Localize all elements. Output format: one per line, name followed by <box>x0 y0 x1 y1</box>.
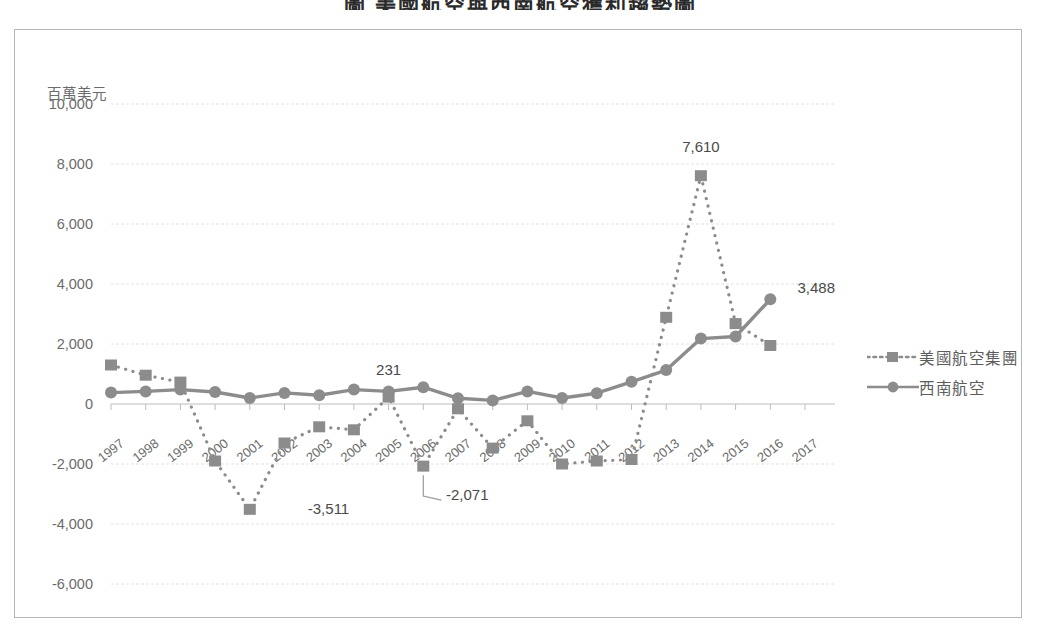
data-point-label: -2,071 <box>446 486 489 503</box>
series-marker <box>313 389 325 401</box>
series-marker <box>174 384 186 396</box>
series-marker <box>730 331 742 343</box>
series-marker <box>105 360 117 371</box>
x-axis-tick-labels: 1997199819992000200120022003200420052006… <box>95 436 821 466</box>
y-axis-tick-label: 2,000 <box>57 336 93 352</box>
series-marker <box>209 386 221 398</box>
legend-item-southwest-airlines[interactable]: 西南航空 <box>867 372 1027 402</box>
x-axis-tick-label: 2003 <box>303 436 335 466</box>
label-leader-line <box>423 475 441 500</box>
x-axis-tick-label: 1998 <box>130 436 162 466</box>
series-marker <box>521 385 533 397</box>
series-marker <box>556 392 568 404</box>
series-marker <box>764 293 776 305</box>
x-axis-tick-label: 2016 <box>754 436 786 466</box>
x-axis-tick-label: 2014 <box>685 436 717 466</box>
series-marker <box>313 421 325 432</box>
series-marker <box>417 381 429 393</box>
series-marker <box>556 459 568 470</box>
y-axis-tick-label: 8,000 <box>57 156 93 172</box>
y-axis-tick-label: -6,000 <box>52 576 93 592</box>
x-axis-tick-label: 2007 <box>442 436 474 466</box>
legend-label-southwest-airlines: 西南航空 <box>919 376 985 398</box>
x-axis <box>111 404 835 410</box>
x-axis-tick-label: 2009 <box>511 436 543 466</box>
chart-frame: 百萬美元 10,0008,0006,0004,0002,0000-2,000-4… <box>14 29 1022 618</box>
series-marker <box>209 456 221 467</box>
x-axis-tick-label: 2005 <box>372 436 404 466</box>
y-axis-tick-label: 4,000 <box>57 276 93 292</box>
series-marker <box>487 394 499 406</box>
series-marker <box>521 415 533 426</box>
page-title: 圖 美國航空與西南航空獲利趨勢圖 <box>0 0 1041 10</box>
series-marker <box>279 387 291 399</box>
x-axis-tick-label: 2013 <box>650 436 682 466</box>
series-marker <box>695 170 707 181</box>
series-marker <box>591 387 603 399</box>
data-point-label: -3,511 <box>308 500 349 517</box>
legend-swatch-solid-circle <box>867 380 919 394</box>
series-marker <box>764 340 776 351</box>
series-marker <box>452 403 464 414</box>
legend-label-american-airlines: 美國航空集團 <box>919 346 1018 368</box>
gridlines <box>111 104 835 584</box>
series-marker <box>660 364 672 376</box>
series-marker <box>487 443 499 454</box>
series-marker <box>279 438 291 449</box>
series-marker <box>695 333 707 345</box>
legend-swatch-dotted-square <box>867 350 919 364</box>
series-marker <box>348 424 360 435</box>
data-point-label: 3,488 <box>798 279 836 296</box>
series-marker <box>730 318 742 329</box>
x-axis-tick-label: 2017 <box>789 436 821 466</box>
y-axis-tick-labels: 10,0008,0006,0004,0002,0000-2,000-4,000-… <box>49 96 93 592</box>
series-marker <box>348 384 360 396</box>
x-axis-tick-label: 2001 <box>234 436 266 466</box>
series-marker <box>140 370 152 381</box>
y-axis-tick-label: -4,000 <box>52 516 93 532</box>
x-axis-tick-label: 1997 <box>95 436 127 466</box>
chart-legend: 美國航空集團 西南航空 <box>867 342 1027 402</box>
x-axis-tick-label: 2015 <box>719 436 751 466</box>
chart-plot: 10,0008,0006,0004,0002,0000-2,000-4,000-… <box>15 30 1023 619</box>
series-marker <box>591 456 603 467</box>
legend-item-american-airlines[interactable]: 美國航空集團 <box>867 342 1027 372</box>
y-axis-tick-label: 10,000 <box>49 96 93 112</box>
series-marker <box>417 461 429 472</box>
y-axis-tick-label: -2,000 <box>52 456 93 472</box>
series-marker <box>626 454 638 465</box>
series-marker <box>626 376 638 388</box>
series-marker <box>244 504 256 515</box>
y-axis-tick-label: 6,000 <box>57 216 93 232</box>
series-marker <box>140 385 152 397</box>
x-axis-tick-label: 2004 <box>338 436 370 466</box>
data-point-label: 7,610 <box>682 138 720 155</box>
series-marker <box>105 387 117 399</box>
data-point-label: 231 <box>376 361 401 378</box>
series-marker <box>244 392 256 404</box>
series-marker <box>452 392 464 404</box>
y-axis-tick-label: 0 <box>85 396 93 412</box>
series-marker <box>383 385 395 397</box>
series-marker <box>660 312 672 323</box>
x-axis-tick-label: 1999 <box>164 436 196 466</box>
